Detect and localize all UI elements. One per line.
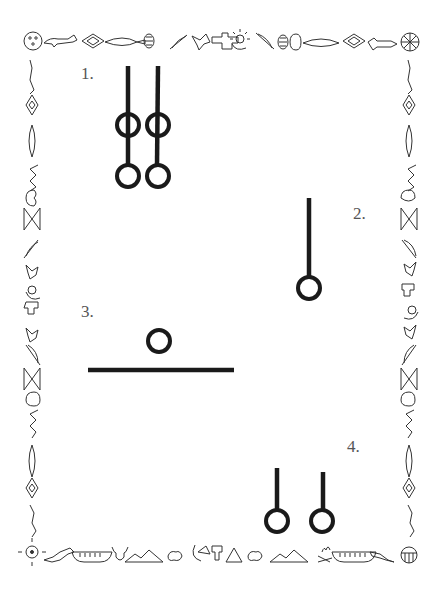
figure-3-label: 3.: [81, 302, 94, 322]
tipi-icon: [226, 548, 242, 562]
figure-2-stick-ring[interactable]: [298, 198, 320, 299]
puzzle-page: 1. 2. 3. 4.: [0, 0, 441, 598]
woven-pattern-icon: [401, 368, 417, 390]
fish-head-icon: [401, 190, 415, 201]
feather-pod-icon: [29, 125, 35, 157]
feather-pod-icon: [105, 38, 145, 46]
diamond-icon: [403, 95, 415, 115]
fish-head-icon: [401, 392, 415, 406]
feather-icon: [256, 33, 274, 49]
stones-icon: [168, 552, 182, 561]
canoe-icon: [72, 552, 112, 562]
figure-1-label: 1.: [81, 64, 94, 84]
lizard-icon: [30, 60, 34, 94]
diamond-icon: [82, 34, 104, 48]
sun-moon-icon: [236, 35, 244, 43]
diamond-icon: [343, 34, 365, 48]
figure-1-loop-sticks[interactable]: [117, 66, 169, 187]
snake-icon: [30, 410, 38, 438]
feather-icon: [26, 345, 40, 365]
stones-icon: [248, 552, 262, 561]
woven-pattern-icon: [401, 208, 417, 230]
thunderbird-icon: [402, 284, 414, 296]
lizard-icon: [408, 60, 412, 94]
stick-with-loop-and-ring-right: [147, 66, 169, 187]
feather-pod-icon: [406, 445, 412, 477]
diamond-icon: [26, 95, 38, 115]
campfire-icon: [318, 547, 332, 562]
snake-icon: [408, 165, 416, 191]
dreamcatcher-icon: [24, 32, 42, 50]
diamond-icon: [26, 478, 38, 498]
mountains-icon: [270, 550, 308, 562]
feather-pod-icon: [406, 125, 412, 157]
snake-icon: [406, 410, 414, 438]
stick-with-loop-and-ring-left: [117, 66, 139, 187]
sun-moon-icon: [28, 286, 36, 294]
bottom-border-icons: [18, 538, 417, 566]
bird-icon: [26, 265, 38, 279]
feather-icon: [170, 35, 187, 49]
fish-head-icon: [26, 190, 36, 206]
animal-icon: [44, 35, 77, 47]
feather-icon: [402, 345, 416, 365]
snake-icon: [30, 165, 38, 191]
feather-icon: [24, 240, 38, 258]
diamond-icon: [403, 478, 415, 498]
thunderbird-icon: [24, 302, 38, 314]
woven-pattern-icon: [24, 368, 40, 390]
horse-icon: [44, 548, 74, 562]
lizard-icon: [408, 505, 414, 537]
lizard-icon: [30, 505, 36, 537]
figure-4-two-stick-rings[interactable]: [266, 468, 333, 532]
figure-4-label: 4.: [347, 437, 360, 457]
woven-pattern-icon: [24, 208, 40, 230]
right-border-icons: [401, 60, 418, 537]
mountains-icon: [125, 550, 163, 562]
feather-pod-icon: [29, 445, 35, 477]
bird-icon: [26, 328, 38, 342]
fish-head-icon: [290, 34, 301, 50]
moon-sun-icon: [193, 545, 210, 561]
figure-3-ring-over-bar[interactable]: [88, 330, 234, 370]
sun-moon-icon: [408, 306, 416, 314]
bird-icon: [404, 262, 416, 276]
animal-icon: [368, 38, 397, 50]
bison-head-icon: [112, 547, 128, 560]
top-border-icons: [24, 29, 419, 51]
canoe-icon: [332, 552, 376, 562]
left-border-icons: [24, 60, 40, 537]
thunderbird-icon: [212, 546, 222, 560]
fish-head-icon: [26, 392, 40, 406]
figure-2-label: 2.: [353, 204, 366, 224]
figures-canvas: [0, 0, 441, 598]
feather-pod-icon: [303, 39, 339, 47]
bird-icon: [404, 325, 416, 339]
feather-icon: [402, 240, 416, 258]
bird-icon: [192, 34, 210, 50]
decorative-border: [18, 29, 419, 566]
